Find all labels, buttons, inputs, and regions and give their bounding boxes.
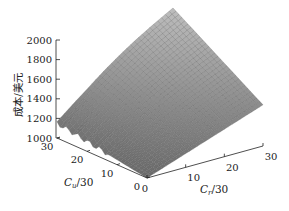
z-axis: 100012001400160018002000 <box>27 35 60 144</box>
svg-text:0: 0 <box>142 183 148 194</box>
cu-axis-label: Cu/30 <box>64 176 93 190</box>
svg-text:20: 20 <box>226 162 239 173</box>
svg-text:1600: 1600 <box>27 74 52 85</box>
svg-text:1400: 1400 <box>27 93 52 104</box>
svg-text:30: 30 <box>41 141 54 152</box>
svg-text:2000: 2000 <box>27 35 52 46</box>
svg-text:10: 10 <box>187 172 200 183</box>
svg-text:0: 0 <box>134 181 140 192</box>
svg-text:10: 10 <box>101 168 114 179</box>
svg-text:1200: 1200 <box>27 113 52 124</box>
svg-text:1800: 1800 <box>27 54 52 65</box>
cr-axis-label: Cr/30 <box>200 183 228 197</box>
svg-text:30: 30 <box>265 151 278 162</box>
cost-surface <box>57 8 263 178</box>
surface-plot: 100012001400160018002000 0102030 0102030… <box>0 0 289 211</box>
z-axis-label: 成本/美元 <box>12 72 24 117</box>
svg-text:20: 20 <box>71 154 84 165</box>
